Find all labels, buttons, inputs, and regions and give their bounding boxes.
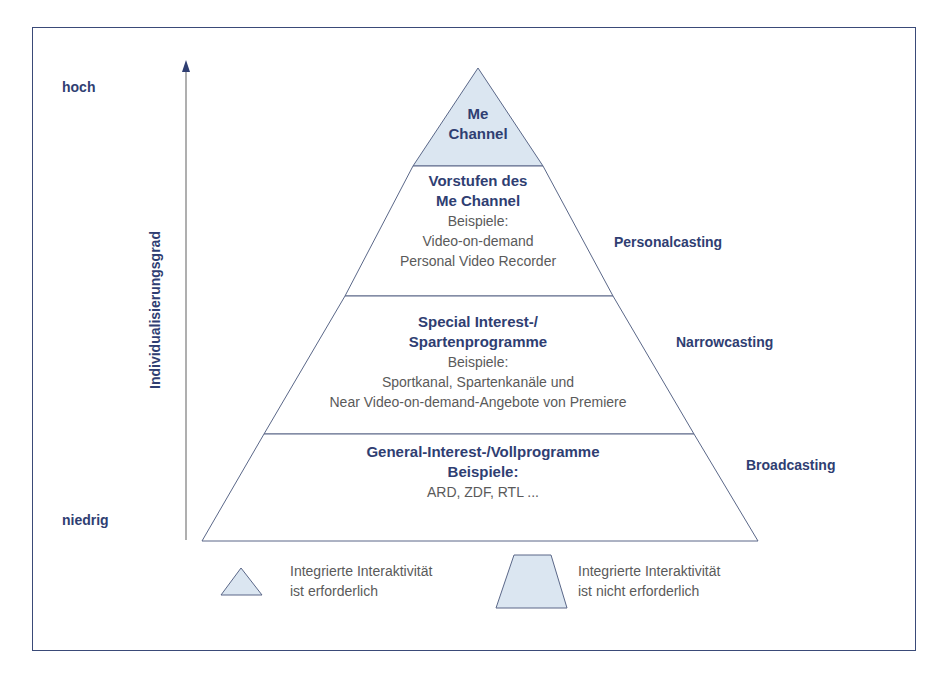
examples-label: Beispiele: xyxy=(400,211,556,231)
examples-label: Beispiele: xyxy=(329,352,626,372)
example-line: Video-on-demand xyxy=(400,231,556,251)
example-line: Near Video-on-demand-Angebote von Premie… xyxy=(329,392,626,412)
example-line: ARD, ZDF, RTL ... xyxy=(366,482,599,502)
axis-high-label: hoch xyxy=(62,77,95,97)
tier-title: Me Channel xyxy=(448,104,507,144)
tier-title-line: Me xyxy=(448,104,507,124)
tier-content: Vorstufen des Me Channel Beispiele: Vide… xyxy=(400,171,556,271)
legend-line: Integrierte Interaktivität xyxy=(290,561,432,581)
axis-title: Individualisierungsgrad xyxy=(147,231,163,389)
tier-title-line: General-Interest-/Vollprogramme xyxy=(366,442,599,462)
tier-title-line: Special Interest-/ xyxy=(329,312,626,332)
tier-title-line: Spartenprogramme xyxy=(329,332,626,352)
legend-item-triangle: Integrierte Interaktivität ist erforderl… xyxy=(290,561,432,601)
tier-title-line: Vorstufen des xyxy=(400,171,556,191)
example-line: Personal Video Recorder xyxy=(400,251,556,271)
legend-item-trapezoid: Integrierte Interaktivität ist nicht erf… xyxy=(578,561,720,601)
tier-content: Special Interest-/ Spartenprogramme Beis… xyxy=(329,312,626,412)
tier-title-line: Me Channel xyxy=(400,191,556,211)
trapezoid-icon xyxy=(496,555,567,608)
example-line: Sportkanal, Spartenkanäle und xyxy=(329,372,626,392)
triangle-icon xyxy=(221,568,262,595)
category-personalcasting: Personalcasting xyxy=(614,232,722,252)
axis-low-label: niedrig xyxy=(62,510,109,530)
category-broadcasting: Broadcasting xyxy=(746,455,835,475)
legend-line: ist nicht erforderlich xyxy=(578,581,720,601)
legend-line: ist erforderlich xyxy=(290,581,432,601)
tier-title-line: Channel xyxy=(448,124,507,144)
arrow-up-icon xyxy=(182,60,190,72)
examples-label: Beispiele: xyxy=(366,462,599,482)
legend-line: Integrierte Interaktivität xyxy=(578,561,720,581)
category-narrowcasting: Narrowcasting xyxy=(676,332,773,352)
tier-content: General-Interest-/Vollprogramme Beispiel… xyxy=(366,442,599,502)
